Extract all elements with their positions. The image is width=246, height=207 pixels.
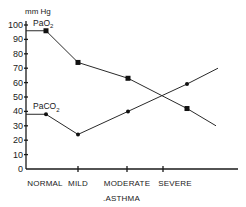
data-point-square [185, 106, 190, 111]
x-axis-label: .ASTHMA [103, 194, 140, 203]
series-paco2: PaCO2 [26, 68, 218, 136]
data-point-square [126, 76, 131, 81]
data-point-circle [44, 112, 48, 116]
series-line [46, 31, 216, 126]
series-label-subscript: 2 [50, 23, 54, 29]
y-tick-label: 80 [13, 49, 23, 59]
data-point-circle [126, 109, 130, 113]
series-group: PaO2PaCO2 [26, 18, 218, 137]
y-tick-label: 70 [13, 63, 23, 73]
y-tick-label: 40 [13, 106, 23, 116]
x-tick-label: SEVERE [158, 179, 192, 188]
series-label-main: PaCO [33, 101, 57, 111]
chart: 0102030405060708090100 NORMALMILDMODERAT… [0, 0, 246, 207]
x-tick-label: MODERATE [104, 179, 150, 188]
series-label-main: PaO [33, 18, 50, 28]
series-label-subscript: 2 [56, 107, 60, 113]
series-line [46, 68, 218, 134]
axes [26, 21, 238, 169]
data-point-square [44, 28, 49, 33]
series-label: PaCO2 [33, 101, 60, 113]
y-tick-label: 0 [18, 164, 23, 174]
x-tick-label: MILD [68, 179, 88, 188]
x-tick-label: NORMAL [27, 179, 63, 188]
y-tick-label: 60 [13, 78, 23, 88]
data-point-circle [185, 82, 189, 86]
series-label: PaO2 [33, 18, 54, 30]
data-point-square [76, 60, 81, 65]
y-tick-label: 30 [13, 121, 23, 131]
data-point-circle [76, 132, 80, 136]
y-axis-ticks: 0102030405060708090100 [8, 20, 28, 174]
y-tick-label: 50 [13, 92, 23, 102]
y-tick-label: 100 [8, 20, 23, 30]
y-tick-label: 90 [13, 34, 23, 44]
y-tick-label: 10 [13, 150, 23, 160]
y-axis-label: mm Hg [25, 7, 51, 16]
y-tick-label: 20 [13, 135, 23, 145]
